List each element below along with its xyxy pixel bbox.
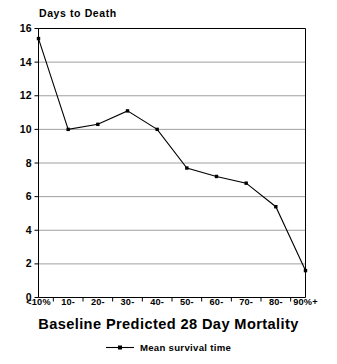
series-markers-mean-survival-time	[37, 37, 307, 272]
y-tick-label: 4	[2, 224, 32, 236]
line-with-marker-icon	[106, 343, 134, 352]
y-tick-label: 16	[2, 22, 32, 34]
y-tick-label: 2	[2, 257, 32, 269]
chart-legend: Mean survival time	[0, 342, 337, 353]
gridlines	[39, 29, 306, 264]
days-to-death-line-chart: Days to Death 0246810121416 <10%10-20-30…	[0, 0, 337, 364]
x-tick-label: 90%+	[284, 297, 328, 307]
data-point-marker	[304, 269, 307, 272]
data-point-marker	[244, 181, 247, 184]
data-point-marker	[66, 128, 69, 131]
plot-area	[0, 0, 337, 364]
data-point-marker	[126, 109, 129, 112]
data-point-marker	[274, 205, 277, 208]
x-axis-title: Baseline Predicted 28 Day Mortality	[0, 316, 337, 332]
y-axis-ticks	[35, 29, 39, 298]
y-tick-label: 8	[2, 157, 32, 169]
y-tick-label: 6	[2, 190, 32, 202]
data-point-marker	[155, 128, 158, 131]
legend-item-label: Mean survival time	[140, 342, 231, 353]
data-point-marker	[37, 37, 40, 40]
series-line-mean-survival-time	[39, 39, 306, 271]
data-point-marker	[215, 175, 218, 178]
y-tick-label: 10	[2, 123, 32, 135]
data-point-marker	[96, 123, 99, 126]
data-point-marker	[185, 166, 188, 169]
y-tick-label: 14	[2, 56, 32, 68]
y-tick-label: 12	[2, 89, 32, 101]
